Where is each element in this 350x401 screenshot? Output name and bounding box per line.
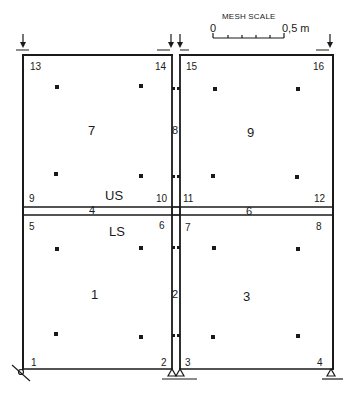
load-arrow-node-15 [177, 34, 189, 50]
upper-storey-label: US [105, 189, 123, 202]
element-label-2: 2 [172, 289, 178, 300]
node-label-11: 11 [183, 194, 193, 204]
right-wall-outline [0, 55, 333, 369]
node-label-15: 15 [186, 62, 197, 72]
scale-title: MESH SCALE [222, 13, 276, 21]
node-label-12: 12 [314, 194, 325, 204]
node-label-7: 7 [185, 223, 191, 233]
node-label-4: 4 [317, 358, 323, 368]
load-arrow-node-14 [157, 34, 174, 50]
node-label-1: 1 [31, 358, 37, 368]
supports [12, 365, 343, 381]
node-label-3: 3 [185, 358, 191, 368]
node-label-10: 10 [156, 194, 167, 204]
left-wall-outline [23, 55, 172, 369]
node-label-13: 13 [30, 62, 41, 72]
mesh-scale-bar [213, 33, 284, 38]
element-label-3: 3 [243, 290, 250, 303]
node-label-9: 9 [29, 194, 35, 204]
element-label-7: 7 [88, 124, 95, 137]
node-label-14: 14 [155, 62, 166, 72]
floor-beam [23, 207, 333, 215]
node-label-16: 16 [313, 62, 324, 72]
node-label-8: 8 [316, 222, 322, 232]
mesh-diagram: MESH SCALE 0 0,5 m 13 14 15 16 9 10 11 1… [0, 0, 350, 401]
central-joint [172, 207, 180, 215]
load-arrows [16, 34, 333, 50]
element-label-6: 6 [246, 206, 252, 217]
element-label-8: 8 [172, 125, 178, 136]
central-column [172, 55, 180, 369]
node-label-5: 5 [29, 222, 35, 232]
lower-storey-label: LS [109, 225, 125, 238]
support-node-1 [12, 365, 30, 381]
load-arrow-node-16 [316, 34, 333, 50]
element-label-4: 4 [89, 205, 95, 216]
support-node-2-3 [162, 369, 197, 379]
node-label-6: 6 [159, 221, 165, 231]
element-label-9: 9 [247, 126, 254, 139]
support-node-4 [322, 369, 343, 379]
scale-end-label: 0,5 m [282, 23, 310, 34]
mesh-drawing [0, 0, 350, 401]
element-label-1: 1 [91, 288, 98, 301]
scale-start-label: 0 [210, 23, 216, 34]
node-label-2: 2 [161, 358, 167, 368]
load-arrow-node-13 [16, 34, 29, 50]
